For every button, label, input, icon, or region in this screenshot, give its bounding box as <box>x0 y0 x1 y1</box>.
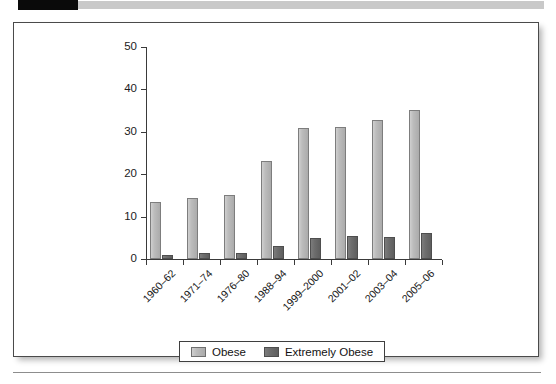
legend-entry-obese: Obese <box>191 346 246 358</box>
x-axis-tick <box>183 260 184 265</box>
bar-extremely-obese-5 <box>347 236 358 259</box>
y-axis-tick-label: 40 <box>106 83 137 94</box>
bar-extremely-obese-0 <box>162 255 173 259</box>
y-axis-tick <box>141 217 147 218</box>
legend-entry-extremely-obese: Extremely Obese <box>264 346 373 358</box>
bar-obese-3 <box>261 161 272 259</box>
legend-label: Obese <box>212 346 246 358</box>
y-axis-tick-label: 10 <box>106 211 137 222</box>
legend-swatch-icon <box>264 347 279 357</box>
bar-obese-4 <box>298 128 309 259</box>
bar-extremely-obese-4 <box>310 238 321 259</box>
bar-obese-7 <box>409 110 420 259</box>
header-gray-rule <box>78 1 544 9</box>
x-axis-tick <box>405 260 406 265</box>
y-axis-tick <box>141 132 147 133</box>
bar-obese-5 <box>335 127 346 259</box>
header-black-tab <box>18 0 78 10</box>
bar-obese-2 <box>224 195 235 259</box>
legend-label: Extremely Obese <box>285 346 373 358</box>
chart-legend: ObeseExtremely Obese <box>179 341 385 362</box>
bar-extremely-obese-6 <box>384 237 395 259</box>
x-axis-tick <box>294 260 295 265</box>
page-header-decoration <box>0 0 556 12</box>
y-axis-tick-label: 20 <box>106 168 137 179</box>
x-axis-tick <box>331 260 332 265</box>
x-axis-tick <box>442 260 443 265</box>
figure-frame: 01020304050 1960–621971–741976–801988–94… <box>13 22 539 357</box>
bar-extremely-obese-2 <box>236 253 247 259</box>
footer-rule <box>13 372 541 373</box>
bar-obese-0 <box>150 202 161 259</box>
y-axis-tick-label-text: 40 <box>111 83 137 94</box>
y-axis-tick-label-text: 0 <box>111 253 137 264</box>
y-axis-line <box>146 47 147 260</box>
x-axis-tick <box>220 260 221 265</box>
bar-extremely-obese-3 <box>273 246 284 259</box>
bar-extremely-obese-1 <box>199 253 210 259</box>
y-axis-tick-label: 50 <box>106 41 137 52</box>
x-axis-tick <box>257 260 258 265</box>
x-axis-tick <box>146 260 147 265</box>
y-axis-tick-label: 30 <box>106 126 137 137</box>
legend-swatch-icon <box>191 347 206 357</box>
y-axis-tick <box>141 47 147 48</box>
y-axis-tick-label-text: 20 <box>111 168 137 179</box>
y-axis-tick <box>141 89 147 90</box>
y-axis-tick-label-text: 30 <box>111 126 137 137</box>
y-axis-tick <box>141 174 147 175</box>
bar-chart: 01020304050 1960–621971–741976–801988–94… <box>14 23 540 358</box>
x-axis-tick <box>368 260 369 265</box>
y-axis-tick-label-text: 10 <box>111 211 137 222</box>
bar-obese-6 <box>372 120 383 259</box>
y-axis-tick-label: 0 <box>106 253 137 264</box>
bar-extremely-obese-7 <box>421 233 432 259</box>
bar-obese-1 <box>187 198 198 259</box>
y-axis-tick-label-text: 50 <box>111 41 137 52</box>
